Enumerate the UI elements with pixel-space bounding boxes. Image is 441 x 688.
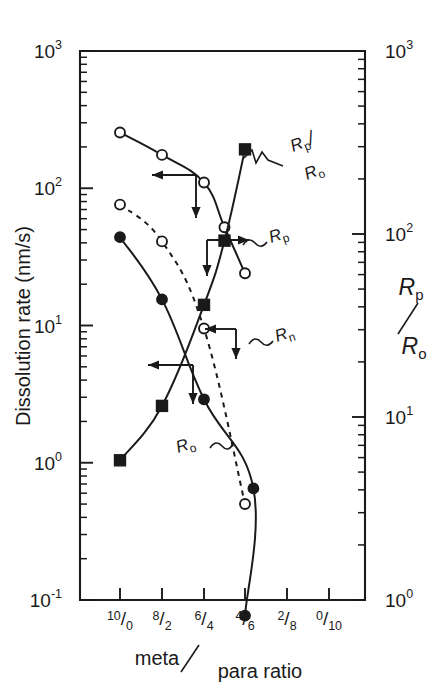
data-point-Rp [240, 268, 250, 278]
chart-svg: 10-1100101102103 100101102103 10/08/26/4… [0, 0, 441, 688]
series-Ro [115, 232, 259, 621]
arrowhead-down [231, 348, 240, 359]
left-axis-title: Dissolution rate (nm/s) [12, 226, 34, 426]
curve-label-Rn: Rn [249, 322, 297, 349]
dissolution-rate-chart: 10-1100101102103 100101102103 10/08/26/4… [0, 0, 441, 688]
data-point-Rp/Ro [157, 400, 168, 411]
arrowhead-left [152, 170, 163, 179]
arrowhead-left [148, 360, 159, 369]
axis-tick-label: 102 [34, 175, 62, 199]
x-axis-title-meta: meta [135, 647, 180, 669]
series-line-Rp [120, 133, 245, 274]
arrow-to-left-axis-rn [205, 324, 241, 359]
axis-tick-label: 102 [385, 221, 413, 245]
curve-label-Ro: Ro [173, 433, 233, 460]
data-point-Rn [240, 499, 250, 509]
data-point-Rn [157, 236, 167, 246]
x-axis-title-slash [181, 645, 199, 672]
axis-tick-label: 100 [34, 450, 62, 474]
series-Rp [115, 127, 250, 278]
data-point-Rn [115, 200, 125, 210]
curve-label-Ro-text: Ro [173, 433, 198, 460]
data-point-Ro [248, 483, 258, 493]
right-axis-tick-labels: 100101102103 [385, 38, 413, 611]
data-point-Rp [115, 127, 125, 137]
right-axis-title-numerator: Rp [399, 274, 424, 303]
curve-label-RpRo-denom: Ro [301, 159, 327, 187]
axis-tick-label: 103 [385, 38, 413, 62]
axis-tick-label: 100 [385, 587, 413, 611]
left-axis-ticks [80, 51, 93, 600]
arrow-to-left-axis-upper [152, 170, 201, 218]
left-axis-tick-labels: 10-1100101102103 [30, 38, 62, 611]
data-point-Rp [199, 178, 209, 188]
x-axis-ticks [120, 588, 329, 600]
curve-label-Rp: Rp [243, 223, 292, 250]
x-axis-tick-label: 6/4 [194, 608, 213, 633]
arrowhead-down [188, 393, 197, 404]
data-point-Ro [240, 610, 250, 620]
x-axis-title: meta para ratio [135, 645, 302, 682]
arrowhead-down [202, 265, 211, 276]
data-point-Rp [157, 150, 167, 160]
right-axis-title-slash [398, 303, 418, 334]
series-RpRo [115, 144, 251, 466]
right-axis-title-denominator: Ro [402, 333, 427, 362]
right-axis-title: Rp Ro [398, 274, 426, 362]
curve-label-RpRo-text: Rp/ [287, 127, 320, 159]
axis-tick-label: 101 [385, 404, 413, 428]
x-axis-tick-label: 0/10 [316, 608, 342, 633]
data-point-Ro [115, 232, 125, 242]
curve-label-Rn-text: Rn [272, 322, 297, 349]
series-line-Rn [120, 205, 245, 505]
data-point-Ro [199, 394, 209, 404]
x-axis-tick-labels: 10/08/26/44/62/80/10 [107, 608, 342, 633]
data-point-Ro [157, 294, 167, 304]
data-point-Rp/Ro [199, 299, 210, 310]
x-axis-tick-label: 8/2 [152, 608, 171, 633]
arrowhead-down [191, 207, 200, 218]
series-line-Ro [120, 237, 256, 615]
right-axis-ticks [352, 51, 365, 600]
x-axis-tick-label: 10/0 [107, 608, 133, 633]
axis-tick-label: 101 [34, 313, 62, 337]
curve-label-RpRo: Rp/ Ro [244, 127, 327, 187]
data-point-Rp/Ro [115, 455, 126, 466]
curve-label-Rp-text: Rp [266, 223, 291, 250]
axis-tick-label: 103 [34, 38, 62, 62]
x-axis-title-para: para ratio [218, 660, 303, 682]
x-axis-tick-label: 2/8 [277, 608, 296, 633]
axis-tick-label: 10-1 [30, 587, 62, 611]
